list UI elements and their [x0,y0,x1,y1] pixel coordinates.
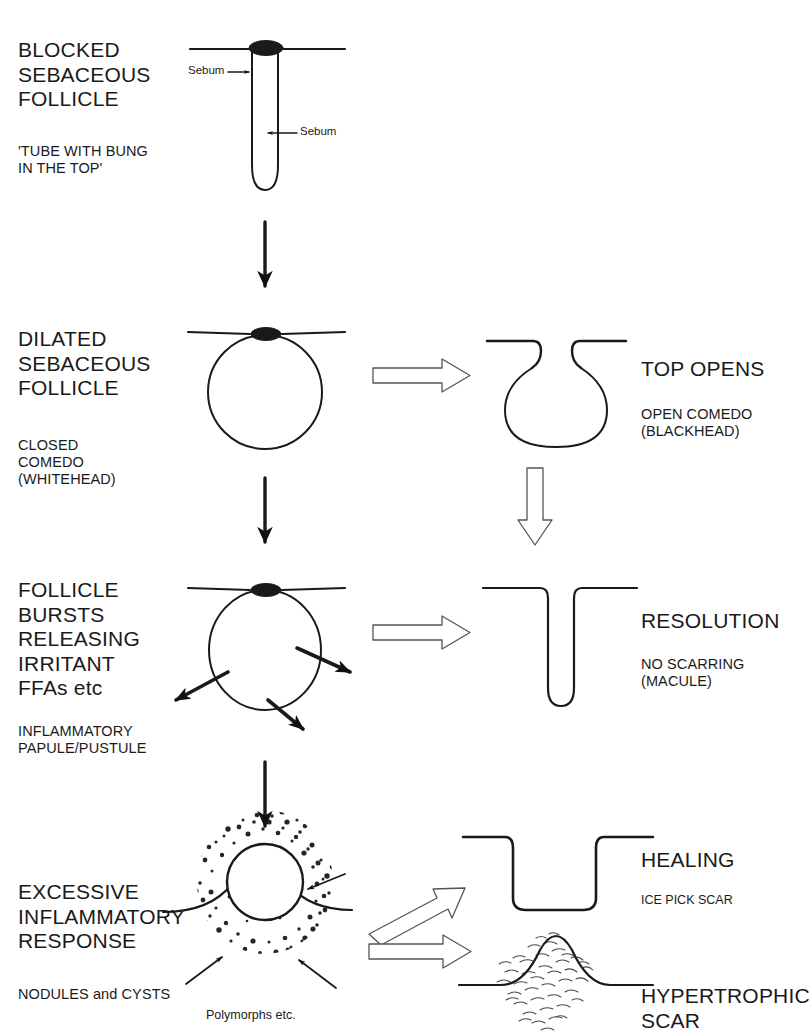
stage-2-caption: CLOSED COMEDO (WHITEHEAD) [18,437,116,488]
dilated-follicle-artwork [188,328,345,450]
stage-4-caption: NODULES and CYSTS [18,986,170,1003]
sebum-lumen-label: Sebum [300,125,336,138]
ice-pick-scar-caption: ICE PICK SCAR [641,893,733,908]
stage-2-heading: DILATED SEBACEOUS FOLLICLE [18,327,151,401]
hollow-arrow-resolution [373,616,470,649]
nodule-cyst-artwork [163,844,352,988]
hollow-arrow-top-opens [373,359,470,392]
hypertrophic-scar-heading: HYPERTROPHIC SCAR [641,984,810,1033]
bursting-follicle-artwork [176,584,350,730]
hollow-arrow-ice-pick [369,888,465,945]
stage-4-heading: EXCESSIVE INFLAMMATORY RESPONSE [18,880,185,954]
ice-pick-scar-artwork [463,837,653,910]
top-opens-caption: OPEN COMEDO (BLACKHEAD) [641,406,752,440]
polymorphs-label: Polymorphs etc. [206,1008,296,1023]
hypertrophic-fibrous-texture [497,933,593,1030]
hollow-arrow-resolution-down [518,468,552,545]
blocked-follicle-artwork [190,41,345,191]
healing-heading: HEALING [641,848,735,873]
stage-1-caption: 'TUBE WITH BUNG IN THE TOP' [18,143,148,177]
stage-3-caption: INFLAMMATORY PAPULE/PUSTULE [18,723,146,757]
sebum-plug-label: Sebum [188,64,224,77]
open-comedo-artwork [487,341,626,447]
top-opens-heading: TOP OPENS [641,357,765,382]
resolution-artwork [483,588,637,706]
resolution-heading: RESOLUTION [641,609,780,634]
resolution-caption: NO SCARRING (MACULE) [641,656,744,690]
stage-3-heading: FOLLICLE BURSTS RELEASING IRRITANT FFAs … [18,578,140,701]
stage-1-heading: BLOCKED SEBACEOUS FOLLICLE [18,38,151,112]
